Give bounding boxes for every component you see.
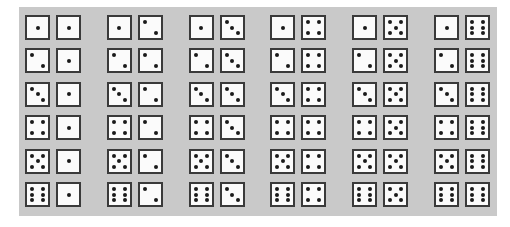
pip-icon bbox=[388, 131, 392, 135]
pip-icon bbox=[286, 131, 290, 135]
pip-icon bbox=[117, 159, 121, 163]
die-face-6 bbox=[465, 15, 490, 40]
pip-icon bbox=[67, 26, 71, 30]
pip-icon bbox=[439, 131, 443, 135]
pip-icon bbox=[286, 165, 290, 169]
pip-icon bbox=[36, 92, 40, 96]
pip-icon bbox=[30, 154, 34, 158]
pip-icon bbox=[445, 159, 449, 163]
pip-icon bbox=[205, 198, 209, 202]
die-face-5 bbox=[270, 149, 295, 174]
pip-icon bbox=[225, 53, 229, 57]
die-face-1 bbox=[56, 82, 81, 107]
pip-icon bbox=[67, 126, 71, 130]
pip-icon bbox=[357, 131, 361, 135]
pip-icon bbox=[41, 187, 45, 191]
die-face-6 bbox=[465, 182, 490, 207]
pip-icon bbox=[230, 59, 234, 63]
pip-icon bbox=[286, 193, 290, 197]
pip-icon bbox=[481, 92, 485, 96]
pip-icon bbox=[388, 31, 392, 35]
pip-icon bbox=[481, 154, 485, 158]
pip-icon bbox=[470, 159, 474, 163]
pip-icon bbox=[225, 120, 229, 124]
pip-icon bbox=[317, 20, 321, 24]
pip-icon bbox=[230, 92, 234, 96]
pip-icon bbox=[470, 198, 474, 202]
pip-icon bbox=[357, 193, 361, 197]
pip-icon bbox=[230, 159, 234, 163]
pip-icon bbox=[317, 187, 321, 191]
pip-icon bbox=[154, 198, 158, 202]
die-face-5 bbox=[352, 149, 377, 174]
die-face-3 bbox=[352, 82, 377, 107]
pip-icon bbox=[394, 26, 398, 30]
pip-icon bbox=[123, 187, 127, 191]
pip-icon bbox=[117, 92, 121, 96]
pip-icon bbox=[317, 31, 321, 35]
die-face-3 bbox=[25, 82, 50, 107]
pip-icon bbox=[317, 120, 321, 124]
pip-icon bbox=[281, 159, 285, 163]
die-face-1 bbox=[352, 15, 377, 40]
pip-icon bbox=[388, 53, 392, 57]
pip-icon bbox=[450, 98, 454, 102]
pip-icon bbox=[363, 159, 367, 163]
pip-icon bbox=[41, 120, 45, 124]
pip-icon bbox=[275, 87, 279, 91]
die-face-1 bbox=[434, 15, 459, 40]
die-face-5 bbox=[383, 48, 408, 73]
die-face-5 bbox=[107, 149, 132, 174]
die-face-2 bbox=[138, 182, 163, 207]
pip-icon bbox=[236, 131, 240, 135]
pip-icon bbox=[117, 26, 121, 30]
pip-icon bbox=[225, 154, 229, 158]
pip-icon bbox=[470, 53, 474, 57]
die-face-2 bbox=[352, 48, 377, 73]
pip-icon bbox=[306, 87, 310, 91]
pip-icon bbox=[112, 120, 116, 124]
pip-icon bbox=[194, 187, 198, 191]
pip-icon bbox=[394, 126, 398, 130]
pip-icon bbox=[368, 193, 372, 197]
pip-icon bbox=[439, 87, 443, 91]
pip-icon bbox=[275, 154, 279, 158]
pip-icon bbox=[154, 64, 158, 68]
pip-icon bbox=[112, 87, 116, 91]
pip-icon bbox=[194, 154, 198, 158]
pip-icon bbox=[470, 131, 474, 135]
pip-icon bbox=[363, 92, 367, 96]
pip-icon bbox=[199, 159, 203, 163]
pip-icon bbox=[112, 131, 116, 135]
pip-icon bbox=[317, 64, 321, 68]
pip-icon bbox=[368, 187, 372, 191]
pip-icon bbox=[357, 53, 361, 57]
pip-icon bbox=[143, 53, 147, 57]
pip-icon bbox=[143, 154, 147, 158]
pip-icon bbox=[275, 53, 279, 57]
die-face-5 bbox=[383, 149, 408, 174]
pip-icon bbox=[194, 131, 198, 135]
die-face-5 bbox=[383, 82, 408, 107]
die-face-3 bbox=[434, 82, 459, 107]
pip-icon bbox=[481, 59, 485, 63]
pip-icon bbox=[143, 20, 147, 24]
pip-icon bbox=[30, 165, 34, 169]
pip-icon bbox=[230, 26, 234, 30]
pip-icon bbox=[399, 98, 403, 102]
die-face-5 bbox=[434, 149, 459, 174]
pip-icon bbox=[281, 92, 285, 96]
pip-icon bbox=[67, 159, 71, 163]
pip-icon bbox=[30, 120, 34, 124]
pip-icon bbox=[306, 20, 310, 24]
pip-icon bbox=[481, 187, 485, 191]
die-face-2 bbox=[434, 48, 459, 73]
die-face-2 bbox=[107, 48, 132, 73]
pip-icon bbox=[36, 26, 40, 30]
pip-icon bbox=[481, 165, 485, 169]
pip-icon bbox=[317, 87, 321, 91]
pip-icon bbox=[399, 120, 403, 124]
pip-icon bbox=[236, 98, 240, 102]
die-face-1 bbox=[56, 115, 81, 140]
die-face-4 bbox=[107, 115, 132, 140]
